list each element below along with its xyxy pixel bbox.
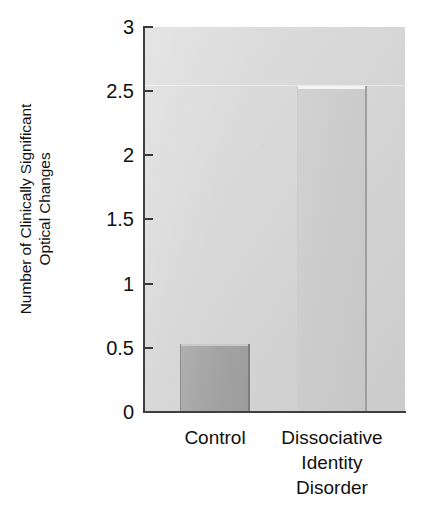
bar-did-left-edge [297,86,298,412]
y-tick-mark-1.5 [143,218,153,220]
bar-did-right-edge [365,86,367,412]
y-axis-title-line-1: Number of Clinically Significant [16,104,35,314]
y-axis-title-text: Number of Clinically Significant Optical… [16,104,54,314]
y-tick-label-2: 2 [123,145,134,165]
x-axis-line [143,411,406,413]
x-tick-label-did-line-1: Dissociative [281,425,382,450]
x-tick-label-dissociative-identity-disorder: Dissociative Identity Disorder [281,425,382,500]
x-tick-label-control: Control [184,425,245,450]
bar-control-right-edge [248,344,250,412]
bar-did-top-edge [297,86,367,89]
y-tick-label-2.5: 2.5 [106,81,134,101]
y-axis-tick-labels: 3 2.5 2 1.5 1 0.5 0 [68,0,140,518]
x-tick-label-control-line-1: Control [184,425,245,450]
x-tick-label-did-line-2: Identity [281,450,382,475]
bar-control [180,344,250,412]
scan-speck [261,145,264,147]
bar-did-face [297,86,367,412]
bar-control-face [180,344,250,412]
plot-area [143,27,405,412]
y-tick-label-0: 0 [123,402,134,422]
bar-dissociative-identity-disorder [297,86,367,412]
y-tick-mark-1 [143,283,153,285]
y-tick-label-1: 1 [123,274,134,294]
y-tick-label-3: 3 [123,17,134,37]
y-axis-title: Number of Clinically Significant Optical… [0,0,70,418]
bar-chart-figure: Number of Clinically Significant Optical… [0,0,428,518]
y-tick-label-1.5: 1.5 [106,209,134,229]
bar-control-top-edge [180,344,250,346]
y-tick-label-0.5: 0.5 [106,338,134,358]
y-tick-mark-0.5 [143,347,153,349]
bar-control-left-edge [180,344,181,412]
x-tick-label-did-line-3: Disorder [281,475,382,500]
y-tick-mark-2 [143,154,153,156]
y-tick-mark-3 [143,26,153,28]
scan-speck [379,233,381,235]
y-tick-mark-2.5 [143,90,153,92]
y-axis-title-line-2: Optical Changes [35,104,54,314]
